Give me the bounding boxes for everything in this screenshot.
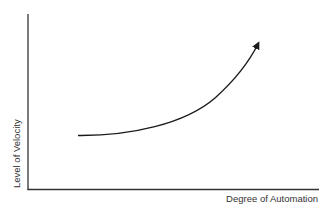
y-axis-label: Level of Velocity: [12, 119, 22, 188]
diagram-canvas: [0, 0, 334, 210]
x-axis-label: Degree of Automation: [226, 193, 318, 204]
velocity-curve: [78, 44, 258, 136]
